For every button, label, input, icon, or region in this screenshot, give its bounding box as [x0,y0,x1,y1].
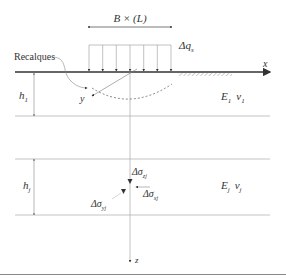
settlement-label-group: Recalques [14,51,87,88]
layer-j-properties: Ejνj [220,179,242,194]
settlement-basin-curve [92,84,172,99]
layer-j-thickness-label: hj [23,179,31,194]
settlement-diagram: B × (L) Δqs x z y Recalques [0,0,286,278]
settlement-label: Recalques [14,51,55,62]
footing-dimension-label: B × (L) [113,12,146,25]
stress-increments: Δσzj Δσxj Δσyj [90,166,158,211]
ground-hatch [178,73,232,76]
load-label: Δqs [178,39,194,54]
layer-1-thickness-label: h1 [19,89,28,104]
horizontal-x-stress-label: Δσxj [142,188,158,201]
layer-j-thickness: hj [23,160,34,214]
layer-1-thickness: h1 [19,74,34,115]
x-axis-label: x [262,58,268,69]
footing-dimension: B × (L) [89,12,171,27]
horizontal-y-stress-label: Δσyj [90,198,106,211]
vertical-stress-arrow-icon [128,179,133,184]
z-axis-label: z [134,255,139,265]
horizontal-y-stress-arrow-icon [121,189,126,194]
horizontal-y-stress-leader [112,193,121,199]
layer-1-properties: E1ν1 [220,90,245,105]
y-axis-label: y [79,93,85,104]
y-axis: y [79,69,137,104]
distributed-load: Δqs [89,39,194,71]
vertical-stress-label: Δσzj [131,166,147,179]
